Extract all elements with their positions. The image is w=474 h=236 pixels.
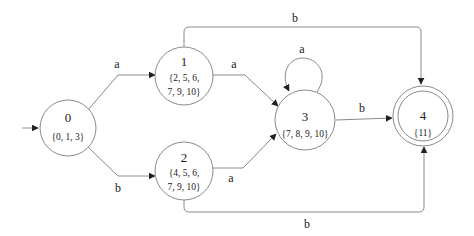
edge-label-3-4: b	[359, 101, 365, 115]
state-3-id: 3	[302, 109, 309, 124]
state-4-id: 4	[420, 108, 427, 123]
state-1-set-line-1: {2, 5, 6,	[169, 73, 200, 83]
state-0-id: 0	[65, 110, 72, 125]
edge-3-4	[336, 118, 392, 120]
state-4-set: {11}	[414, 128, 432, 138]
state-2-set-line-1: {4, 5, 6,	[169, 168, 200, 178]
edge-label-1-3: a	[231, 57, 237, 71]
dfa-diagram: a b a a a b b b 0 {0, 1, 3} 1 {2, 5, 6, …	[0, 0, 474, 236]
edge-label-3-3: a	[299, 42, 305, 56]
edge-0-1	[88, 75, 155, 110]
state-4: 4 {11}	[393, 86, 453, 146]
edge-3-3	[285, 58, 322, 92]
edge-label-2-4: b	[304, 217, 310, 231]
edge-2-4	[184, 147, 424, 212]
state-2-set-line-2: 7, 9, 10}	[167, 182, 200, 192]
edge-label-0-2: b	[115, 181, 121, 195]
state-1-set-line-2: 7, 9, 10}	[167, 87, 200, 97]
edge-label-1-4: b	[292, 11, 298, 25]
state-2: 2 {4, 5, 6, 7, 9, 10}	[155, 142, 213, 200]
edge-0-2	[88, 147, 155, 176]
state-3: 3 {7, 8, 9, 10}	[275, 90, 335, 150]
state-0-set: {0, 1, 3}	[52, 132, 85, 142]
state-3-set: {7, 8, 9, 10}	[281, 129, 328, 139]
edge-label-2-3: a	[228, 171, 234, 185]
edge-1-3	[212, 75, 278, 106]
state-1-id: 1	[181, 54, 188, 69]
edge-label-0-1: a	[114, 57, 120, 71]
edge-2-3	[212, 134, 276, 168]
state-2-id: 2	[181, 150, 188, 165]
state-0: 0 {0, 1, 3}	[40, 100, 96, 156]
state-1: 1 {2, 5, 6, 7, 9, 10}	[155, 47, 213, 105]
